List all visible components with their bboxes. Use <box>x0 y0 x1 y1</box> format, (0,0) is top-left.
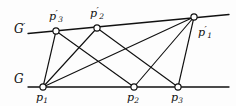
node-p2-prime <box>94 25 100 31</box>
edge-p1-p2prime <box>43 28 97 87</box>
node-p2-label: p2 <box>127 92 139 105</box>
geometric-diagram: G′Gp1p2p3p′1p′2p′3 <box>0 0 236 106</box>
edges-group <box>43 17 194 87</box>
node-p3-prime-label: p′3 <box>49 9 63 24</box>
node-p2-prime-label: p′2 <box>90 6 104 21</box>
node-p3-prime <box>53 28 59 34</box>
edge-p3-p1prime <box>178 17 194 87</box>
node-p1-prime <box>191 14 197 20</box>
node-p2 <box>131 84 137 90</box>
line-G-label: G <box>14 73 24 85</box>
node-p1 <box>40 84 46 90</box>
node-p1-label: p1 <box>36 92 48 105</box>
edge-p3prime-p2 <box>56 31 134 87</box>
node-p3 <box>175 84 181 90</box>
edge-p2prime-p3 <box>97 28 178 87</box>
edge-p1-p3prime <box>43 31 56 87</box>
node-p3-label: p3 <box>171 92 183 105</box>
node-p1-prime-label: p′1 <box>198 25 212 40</box>
line-G-prime-label: G′ <box>14 22 25 35</box>
